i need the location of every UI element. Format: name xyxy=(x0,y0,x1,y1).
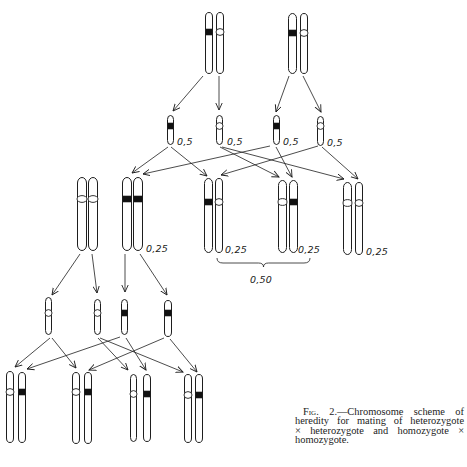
chromosome-e1 xyxy=(123,178,132,251)
chromosome-h2 xyxy=(85,373,92,444)
chromosome-i2 xyxy=(144,375,151,442)
chromosome-outline xyxy=(289,14,297,74)
arrow xyxy=(92,254,97,293)
recessive-gene-band xyxy=(317,123,324,130)
probability-label: 0,25 xyxy=(366,246,388,257)
chromosome-c1 xyxy=(343,183,352,255)
arrow xyxy=(100,338,183,372)
probability-brace xyxy=(217,258,310,267)
dominant-gene-band xyxy=(168,123,174,129)
dominant-gene-band xyxy=(290,199,298,205)
chromosome-outline xyxy=(196,375,203,443)
chromosome-g7 xyxy=(122,300,128,335)
arrow xyxy=(126,338,146,370)
chromosome-g6 xyxy=(94,300,101,335)
chromosome-outline xyxy=(123,178,132,251)
chromosome-j1 xyxy=(184,375,192,443)
chromosome-outline xyxy=(144,375,151,442)
recessive-gene-band xyxy=(45,310,52,317)
arrow xyxy=(170,339,197,372)
chromosome-f1 xyxy=(6,372,14,443)
chromosome-outline xyxy=(217,13,224,74)
chromosome-g2 xyxy=(216,116,223,145)
chromosome-p1-b xyxy=(216,13,224,74)
chromosome-j2 xyxy=(196,375,203,443)
chromosome-p2-b xyxy=(300,14,308,74)
arrow xyxy=(132,147,168,173)
chromosome-outline xyxy=(279,181,287,253)
probability-label: 0,25 xyxy=(146,243,168,254)
probability-label: 0,5 xyxy=(177,136,193,147)
dominant-gene-band xyxy=(144,391,151,397)
chromosome-d2 xyxy=(88,178,98,251)
arrow xyxy=(27,337,120,369)
chromosome-outline xyxy=(205,179,213,253)
probability-label: 0,25 xyxy=(298,244,320,255)
chromosome-i1 xyxy=(130,375,137,442)
recessive-gene-band xyxy=(355,200,363,207)
recessive-gene-band xyxy=(94,310,101,317)
chromosome-outline xyxy=(19,373,26,443)
dominant-gene-band xyxy=(205,199,213,205)
chromosome-g1 xyxy=(168,116,174,145)
chromosome-outline xyxy=(95,300,101,335)
chromosome-outline xyxy=(165,301,172,337)
chromosome-h1 xyxy=(72,373,80,444)
dominant-gene-band xyxy=(289,30,297,36)
arrow xyxy=(276,76,289,112)
arrow xyxy=(89,338,164,370)
recessive-gene-band xyxy=(6,389,14,396)
recessive-gene-band xyxy=(216,29,224,36)
recessive-gene-band xyxy=(215,199,223,206)
dominant-gene-band xyxy=(123,196,132,202)
chromosome-g4 xyxy=(317,117,324,146)
chromosome-outline xyxy=(78,178,87,251)
probability-label: 0,25 xyxy=(225,244,247,255)
arrow xyxy=(222,147,344,179)
probability-label: 0,5 xyxy=(327,137,343,148)
chromosome-outline xyxy=(216,179,223,253)
recessive-gene-band xyxy=(88,196,98,203)
recessive-gene-band xyxy=(77,196,87,203)
chromosome-outline xyxy=(185,375,192,443)
dominant-gene-band xyxy=(165,310,172,316)
chromosome-outline xyxy=(122,300,128,335)
arrow xyxy=(322,147,358,179)
dominant-gene-band xyxy=(206,29,213,35)
arrow xyxy=(140,254,167,295)
chromosome-b1 xyxy=(278,181,287,253)
arrow xyxy=(173,76,203,111)
chromosome-b2 xyxy=(290,181,298,253)
arrow xyxy=(303,76,321,112)
chromosome-heredity-diagram: 0,50,50,50,50,250,250,250,250,50 xyxy=(0,0,467,467)
chromosome-outline xyxy=(206,13,213,74)
arrow xyxy=(52,254,80,295)
recessive-gene-band xyxy=(130,391,137,398)
recessive-gene-band xyxy=(278,199,287,206)
chromosome-g8 xyxy=(165,301,172,337)
dominant-gene-band xyxy=(134,196,143,202)
chromosome-d1 xyxy=(77,178,87,251)
chromosome-g3 xyxy=(274,116,280,145)
chromosome-outline xyxy=(7,372,14,443)
chromosome-e2 xyxy=(134,178,143,251)
chromosome-outline xyxy=(168,116,174,145)
chromosome-outline xyxy=(131,375,137,442)
recessive-gene-band xyxy=(72,389,80,396)
dominant-gene-band xyxy=(19,389,26,395)
chromosome-a2 xyxy=(215,179,223,253)
recessive-gene-band xyxy=(184,392,192,399)
chromosome-f2 xyxy=(19,373,26,443)
probability-label: 0,50 xyxy=(250,274,272,285)
chromosome-outline xyxy=(134,178,143,251)
chromosomes xyxy=(6,13,363,444)
chromosome-outline xyxy=(217,116,223,145)
dominant-gene-band xyxy=(85,389,92,395)
caption-line-4: homozygote. xyxy=(295,435,464,444)
figure-caption: Fig. 2.—Chromosome scheme of heredity fo… xyxy=(295,407,464,445)
chromosome-outline xyxy=(290,181,298,253)
chromosome-outline xyxy=(85,373,92,444)
recessive-gene-band xyxy=(216,123,223,130)
dominant-gene-band xyxy=(274,123,280,129)
chromosome-c2 xyxy=(355,183,363,255)
